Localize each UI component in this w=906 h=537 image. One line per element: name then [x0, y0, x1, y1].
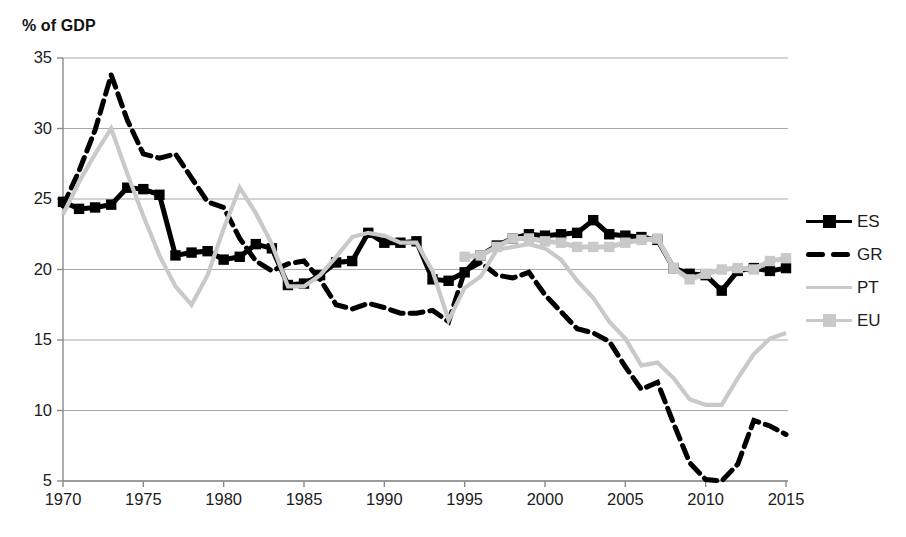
marker-ES — [138, 184, 148, 194]
marker-ES — [443, 276, 453, 286]
legend-item-gr[interactable]: GR — [806, 238, 906, 271]
marker-EU — [492, 242, 502, 252]
x-axis-label-1995: 1995 — [430, 490, 500, 509]
marker-ES — [717, 285, 727, 295]
marker-ES — [572, 228, 582, 238]
legend-swatch-gr-icon — [806, 248, 852, 262]
chart-axis-title: % of GDP — [22, 17, 96, 35]
y-axis-label-5: 5 — [8, 471, 52, 490]
x-axis-label-2010: 2010 — [671, 490, 741, 509]
legend-label-es: ES — [857, 213, 880, 230]
marker-ES — [604, 229, 614, 239]
y-axis-label-20: 20 — [8, 260, 52, 279]
marker-ES — [170, 250, 180, 260]
marker-EU — [588, 242, 598, 252]
marker-EU — [668, 263, 678, 273]
legend-label-gr: GR — [857, 246, 883, 263]
y-axis-label-35: 35 — [8, 48, 52, 67]
marker-ES — [202, 246, 212, 256]
legend-swatch-eu-icon — [806, 314, 852, 328]
legend-item-es[interactable]: ES — [806, 205, 906, 238]
x-axis-label-1980: 1980 — [189, 490, 259, 509]
marker-EU — [684, 274, 694, 284]
legend-label-pt: PT — [857, 279, 879, 296]
x-axis-label-2015: 2015 — [751, 490, 821, 509]
marker-EU — [524, 233, 534, 243]
y-axis-label-15: 15 — [8, 330, 52, 349]
marker-ES — [781, 263, 791, 273]
marker-EU — [620, 238, 630, 248]
marker-EU — [781, 253, 791, 263]
y-axis-label-30: 30 — [8, 119, 52, 138]
legend-swatch-es-icon — [806, 215, 852, 229]
plot-area — [0, 0, 906, 537]
marker-EU — [733, 263, 743, 273]
legend-label-eu: EU — [857, 312, 881, 329]
marker-EU — [476, 250, 486, 260]
marker-ES — [154, 190, 164, 200]
x-axis-label-2000: 2000 — [510, 490, 580, 509]
marker-EU — [540, 236, 550, 246]
marker-ES — [106, 199, 116, 209]
marker-EU — [636, 235, 646, 245]
marker-EU — [556, 238, 566, 248]
marker-EU — [604, 242, 614, 252]
legend-swatch-pt-icon — [806, 281, 852, 295]
marker-ES — [765, 266, 775, 276]
marker-ES — [251, 239, 261, 249]
x-axis-label-2005: 2005 — [590, 490, 660, 509]
marker-ES — [347, 256, 357, 266]
marker-EU — [652, 233, 662, 243]
legend-item-pt[interactable]: PT — [806, 271, 906, 304]
x-axis-label-1975: 1975 — [108, 490, 178, 509]
marker-EU — [717, 264, 727, 274]
marker-ES — [186, 247, 196, 257]
marker-EU — [700, 269, 710, 279]
marker-EU — [572, 242, 582, 252]
marker-EU — [508, 233, 518, 243]
marker-EU — [765, 256, 775, 266]
marker-ES — [218, 254, 228, 264]
marker-EU — [459, 252, 469, 262]
legend-item-eu[interactable]: EU — [806, 304, 906, 337]
marker-EU — [749, 264, 759, 274]
marker-ES — [588, 215, 598, 225]
x-axis-label-1990: 1990 — [349, 490, 419, 509]
chart-legend: ESGRPTEU — [806, 205, 906, 337]
marker-ES — [235, 252, 245, 262]
x-axis-label-1985: 1985 — [269, 490, 339, 509]
x-axis-label-1970: 1970 — [28, 490, 98, 509]
y-axis-label-25: 25 — [8, 189, 52, 208]
marker-ES — [90, 202, 100, 212]
marker-ES — [74, 204, 84, 214]
chart-container: % of GDP 3530252015105 19701975198019851… — [0, 0, 906, 537]
y-axis-label-10: 10 — [8, 401, 52, 420]
